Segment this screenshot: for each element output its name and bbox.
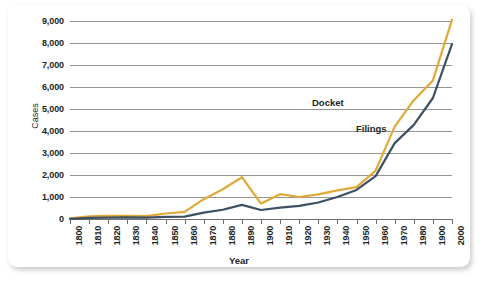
x-tick-label: 1800	[74, 226, 84, 245]
series-line-docket	[70, 20, 452, 218]
y-tick-label: 8,000	[42, 38, 64, 48]
x-tick-label: 1920	[303, 226, 313, 245]
y-tick-label: 4,000	[42, 126, 64, 136]
series-lines	[70, 21, 452, 219]
x-tick-label: 2000	[456, 226, 466, 245]
y-tick-label: 9,000	[42, 16, 64, 26]
x-tick-mark	[433, 219, 434, 224]
x-tick-mark	[242, 219, 243, 224]
y-tick-label: 2,000	[42, 170, 64, 180]
x-tick-label: 1880	[227, 226, 237, 245]
x-tick-mark	[299, 219, 300, 224]
x-tick-label: 1830	[131, 226, 141, 245]
series-label-docket: Docket	[312, 97, 344, 108]
x-tick-mark	[452, 219, 453, 224]
x-tick-mark	[318, 219, 319, 224]
x-tick-mark	[376, 219, 377, 224]
x-tick-label: 1910	[284, 226, 294, 245]
x-tick-label: 1840	[150, 226, 160, 245]
x-tick-mark	[146, 219, 147, 224]
y-tick-label: 3,000	[42, 148, 64, 158]
y-tick-label: 6,000	[42, 82, 64, 92]
y-tick-label: 5,000	[42, 104, 64, 114]
x-tick-label: 1960	[380, 226, 390, 245]
x-tick-mark	[185, 219, 186, 224]
y-tick-label: 7,000	[42, 60, 64, 70]
x-tick-label: 1900	[437, 226, 447, 245]
x-tick-mark	[89, 219, 90, 224]
x-tick-mark	[204, 219, 205, 224]
y-tick-label: 0	[59, 214, 64, 224]
x-tick-label: 1850	[170, 226, 180, 245]
x-tick-label: 1890	[246, 226, 256, 245]
x-tick-label: 1970	[399, 226, 409, 245]
x-tick-mark	[223, 219, 224, 224]
x-tick-label: 1980	[418, 226, 428, 245]
plot-area: 01,0002,0003,0004,0005,0006,0007,0008,00…	[70, 21, 452, 219]
x-tick-label: 1930	[322, 226, 332, 245]
x-tick-mark	[108, 219, 109, 224]
x-axis-title: Year	[8, 255, 470, 266]
chart-card: Cases 01,0002,0003,0004,0005,0006,0007,0…	[8, 5, 470, 267]
x-tick-mark	[337, 219, 338, 224]
x-tick-label: 1860	[189, 226, 199, 245]
series-line-filings	[70, 44, 452, 219]
x-tick-mark	[395, 219, 396, 224]
x-tick-mark	[127, 219, 128, 224]
y-axis-title: Cases	[30, 103, 40, 129]
x-tick-label: 1870	[208, 226, 218, 245]
y-tick-label: 1,000	[42, 192, 64, 202]
x-tick-mark	[261, 219, 262, 224]
x-tick-label: 1940	[341, 226, 351, 245]
x-tick-mark	[357, 219, 358, 224]
x-tick-label: 1900	[265, 226, 275, 245]
x-tick-label: 1810	[93, 226, 103, 245]
x-tick-mark	[280, 219, 281, 224]
x-tick-label: 1950	[361, 226, 371, 245]
x-tick-mark	[166, 219, 167, 224]
x-tick-mark	[414, 219, 415, 224]
x-tick-label: 1820	[112, 226, 122, 245]
series-label-filings: Filings	[356, 123, 387, 134]
